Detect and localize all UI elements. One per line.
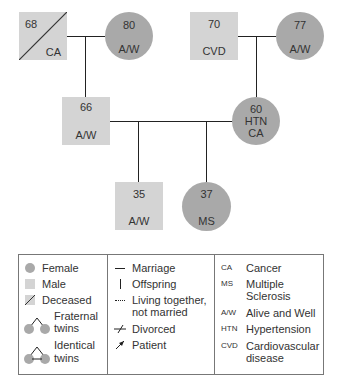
marriage-line-icon	[115, 268, 125, 269]
legend-identical-label-1: Identical	[54, 339, 95, 351]
divorced-line-icon	[114, 324, 126, 334]
legend-patient-label: Patient	[132, 339, 166, 351]
condition-label: CVD	[190, 45, 238, 57]
legend: Female Male Deceased Fraternal twins Ide…	[18, 254, 324, 375]
legend-divorced-label: Divorced	[132, 323, 175, 335]
legend-male-label: Male	[42, 278, 66, 290]
legend-divider-2	[214, 255, 215, 374]
offspring-line-father	[85, 36, 86, 97]
son: 35 A/W	[115, 182, 163, 230]
offspring-line-mother	[256, 36, 257, 97]
abbr-aw: A/W	[221, 307, 236, 319]
legend-female-label: Female	[42, 262, 79, 274]
condition-label-1: HTN	[232, 115, 280, 127]
legend-deceased-label: Deceased	[42, 294, 92, 306]
offspring-line-son	[138, 121, 139, 183]
maternal-grandmother: 77 A/W	[276, 12, 324, 60]
abbr-cvd-meaning-2: disease	[246, 352, 284, 364]
legend-marriage-label: Marriage	[132, 262, 175, 274]
paternal-grandmother: 80 A/W	[105, 12, 153, 60]
abbr-aw-meaning: Alive and Well	[246, 307, 316, 319]
abbr-ca-meaning: Cancer	[246, 262, 281, 274]
patient-arrow-icon	[115, 340, 125, 350]
paternal-grandfather: 68 CA	[19, 12, 67, 60]
abbr-ms-meaning-1: Multiple	[246, 278, 284, 290]
father: 66 A/W	[62, 97, 110, 145]
maternal-grandfather: 70 CVD	[190, 12, 238, 60]
age-label: 70	[190, 18, 238, 30]
daughter: 37 MS	[182, 182, 231, 231]
legend-living-label-2: not married	[132, 306, 188, 318]
legend-offspring-label: Offspring	[132, 278, 176, 290]
abbr-cvd: CVD	[221, 340, 238, 352]
condition-label: MS	[182, 215, 231, 227]
fraternal-twins-icon	[23, 309, 51, 335]
abbr-htn-meaning: Hypertension	[246, 323, 311, 335]
legend-fraternal-label-2: twins	[54, 322, 79, 334]
male-symbol-icon	[25, 279, 35, 289]
abbr-ms-meaning-2: Sclerosis	[246, 290, 291, 302]
condition-label: A/W	[115, 215, 163, 227]
condition-label: CA	[46, 46, 61, 58]
marriage-line-parents	[110, 121, 238, 122]
condition-label: A/W	[105, 43, 153, 55]
age-label: 37	[182, 188, 231, 200]
abbr-ms: MS	[221, 278, 233, 290]
abbr-cvd-meaning-1: Cardiovascular	[246, 340, 319, 352]
condition-label-2: CA	[232, 127, 280, 139]
legend-identical-label-2: twins	[54, 352, 79, 364]
age-label: 60	[232, 103, 280, 115]
age-label: 80	[105, 19, 153, 31]
legend-living-label-1: Living together,	[132, 294, 207, 306]
marriage-line-paternal-grandparents	[67, 36, 105, 37]
living-together-line-icon	[115, 300, 125, 301]
condition-label: A/W	[276, 43, 324, 55]
legend-divider-1	[107, 255, 108, 374]
mother: 60 HTN CA	[232, 97, 280, 145]
marriage-line-maternal-grandparents	[238, 36, 276, 37]
offspring-line-daughter	[206, 121, 207, 183]
age-label: 35	[115, 188, 163, 200]
identical-twins-icon	[23, 338, 51, 366]
legend-fraternal-label-1: Fraternal	[54, 310, 98, 322]
condition-label: A/W	[62, 129, 110, 141]
deceased-symbol-icon	[25, 295, 35, 305]
abbr-ca: CA	[221, 262, 232, 274]
age-label: 77	[276, 19, 324, 31]
age-label: 68	[25, 18, 37, 30]
female-symbol-icon	[25, 263, 35, 273]
age-label: 66	[62, 101, 110, 113]
abbr-htn: HTN	[221, 323, 237, 335]
offspring-line-icon	[120, 279, 121, 289]
